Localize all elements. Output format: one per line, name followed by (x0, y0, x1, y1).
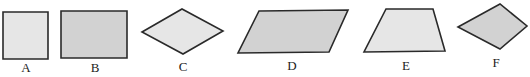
quadrilaterals-diagram: A B C D E F (0, 0, 530, 77)
label-d: D (287, 58, 296, 73)
label-a: A (21, 60, 31, 75)
trapezoid-shape-e (364, 9, 445, 52)
label-f: F (492, 55, 499, 70)
shape-f-group: F (458, 4, 527, 70)
shape-e-group: E (364, 9, 445, 73)
shape-a-group: A (3, 12, 48, 75)
shape-b-group: B (61, 11, 127, 75)
parallelogram-shape-d (238, 10, 348, 53)
label-c: C (179, 59, 188, 74)
shape-c-group: C (142, 9, 223, 74)
rhombus-shape-c (142, 9, 223, 54)
label-b: B (91, 60, 100, 75)
kite-shape-f (458, 4, 527, 49)
square-shape-a (3, 12, 48, 59)
label-e: E (402, 58, 410, 73)
rectangle-shape-b (61, 11, 127, 58)
shape-d-group: D (238, 10, 348, 73)
